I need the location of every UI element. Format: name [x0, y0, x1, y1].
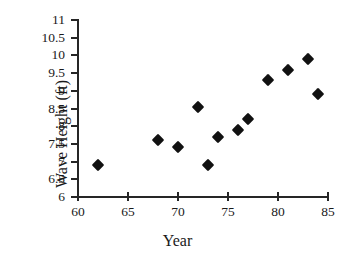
data-point	[212, 130, 225, 143]
wave-height-scatter-chart: 66.577.588.599.51010.511 606570758085 Wa…	[0, 0, 355, 268]
data-point	[202, 159, 215, 172]
x-tick-label: 75	[203, 205, 253, 219]
y-tick-label: 6	[58, 190, 65, 204]
y-tick-label: 11	[52, 13, 65, 27]
x-tick-label: 60	[53, 205, 103, 219]
x-tick-label: 65	[103, 205, 153, 219]
data-point	[312, 88, 325, 101]
data-point	[232, 123, 245, 136]
plot-area	[78, 20, 328, 197]
data-point	[242, 113, 255, 126]
x-axis-title: Year	[0, 232, 355, 250]
x-tick-label: 85	[303, 205, 353, 219]
x-tick-label: 80	[253, 205, 303, 219]
y-tick-label: 10	[52, 48, 66, 62]
y-tick-label: 10.5	[41, 31, 65, 45]
x-tick-label: 70	[153, 205, 203, 219]
data-point	[172, 141, 185, 154]
data-point	[282, 63, 295, 76]
y-tick-label: 9.5	[48, 66, 65, 80]
data-point	[262, 74, 275, 87]
data-point	[192, 100, 205, 113]
data-point	[302, 53, 315, 66]
data-point	[92, 159, 105, 172]
y-axis-title: Wave Height (ft)	[53, 80, 71, 188]
data-point	[152, 134, 165, 147]
